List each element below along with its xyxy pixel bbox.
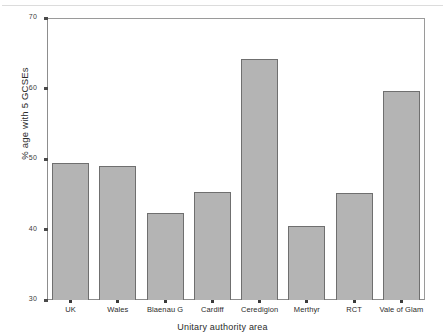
x-axis-tick-mark — [164, 300, 167, 303]
x-axis-tick-label: Wales — [107, 305, 128, 314]
x-axis-tick-mark — [116, 300, 119, 303]
bar-group — [52, 18, 89, 300]
x-axis-tick-label: Ceredigion — [241, 305, 278, 314]
bar-blaenau-g — [147, 213, 184, 300]
bar-group — [99, 18, 136, 300]
bar-merthyr — [288, 226, 325, 300]
x-axis-tick-mark — [211, 300, 214, 303]
x-axis-tick-mark — [258, 300, 261, 303]
bar-uk — [52, 163, 89, 300]
bars-layer — [47, 18, 425, 300]
bar-group — [383, 18, 420, 300]
bar-group — [147, 18, 184, 300]
bar-rct — [336, 193, 373, 300]
x-axis-tick-label: Vale of Glam — [379, 305, 423, 314]
bar-group — [194, 18, 231, 300]
y-axis-tick-label: 70 — [29, 13, 37, 20]
bar-ceredigion — [241, 59, 278, 300]
y-axis-tick-label: 40 — [29, 225, 37, 232]
x-axis-tick-label: UK — [65, 305, 76, 314]
y-axis-tick-label: 30 — [29, 295, 37, 302]
bar-group — [336, 18, 373, 300]
bar-chart-figure: 3040506070 % age with 5 GCSEs UKWalesBla… — [0, 0, 445, 332]
x-axis-tick-mark — [305, 300, 308, 303]
bar-cardiff — [194, 192, 231, 300]
x-axis-tick-mark — [69, 300, 72, 303]
x-axis-tick-label: Blaenau G — [147, 305, 183, 314]
x-axis-tick-label: RCT — [346, 305, 362, 314]
y-axis-tick-label: 50 — [29, 154, 37, 161]
x-axis-title: Unitary authority area — [0, 322, 445, 332]
x-axis-tick-mark — [353, 300, 356, 303]
x-axis-tick-mark — [400, 300, 403, 303]
bar-wales — [99, 166, 136, 300]
bar-group — [288, 18, 325, 300]
bar-vale-of-glam — [383, 91, 420, 300]
bar-group — [241, 18, 278, 300]
y-axis-tick-label: 60 — [29, 84, 37, 91]
x-axis-tick-label: Cardiff — [201, 305, 224, 314]
y-axis-title: % age with 5 GCSEs — [19, 34, 30, 194]
x-axis-tick-label: Merthyr — [294, 305, 320, 314]
